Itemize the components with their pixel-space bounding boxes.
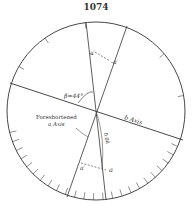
label-beta: β=44° <box>63 92 83 100</box>
foreshortened-pointer <box>76 128 88 137</box>
label-a-prime-bottom: a′ <box>80 164 86 171</box>
projection-diagram: a′ -a′ β=44° Foreshortened a Axis b Axis… <box>0 0 192 206</box>
label-distance: 0.08 <box>103 132 111 144</box>
distance-bracket <box>97 114 103 168</box>
a-prime-dashed-top <box>95 52 110 61</box>
label-a: a <box>109 166 113 174</box>
label-foreshortened: Foreshortened <box>36 114 77 120</box>
label-a-axis: a Axis <box>48 121 65 127</box>
label-minus-a-prime: -a′ <box>111 58 119 65</box>
b-axis-line <box>10 83 183 140</box>
label-a-prime-top: a′ <box>90 49 96 56</box>
